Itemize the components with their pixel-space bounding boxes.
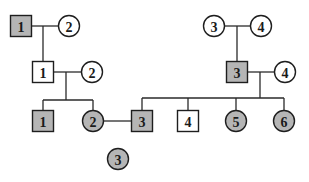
individual-iii-5: 5 xyxy=(226,111,247,132)
individual-label: 3 xyxy=(211,20,218,35)
individual-i-1: 1 xyxy=(11,16,32,37)
individual-label: 2 xyxy=(66,20,73,35)
individual-label: 6 xyxy=(281,115,288,130)
individual-i-3: 3 xyxy=(204,16,225,37)
individuals: 123412341234563 xyxy=(11,16,296,170)
individual-label: 3 xyxy=(234,66,241,81)
individual-ii-2: 2 xyxy=(82,62,103,83)
individual-i-4: 4 xyxy=(251,16,272,37)
individual-ii-1: 1 xyxy=(33,62,54,83)
individual-iv-3: 3 xyxy=(108,149,129,170)
individual-ii-3: 3 xyxy=(227,62,248,83)
individual-label: 2 xyxy=(90,115,97,130)
individual-iii-1: 1 xyxy=(33,111,54,132)
individual-ii-4: 4 xyxy=(275,62,296,83)
individual-iii-2: 2 xyxy=(83,111,104,132)
individual-iii-4: 4 xyxy=(178,111,199,132)
individual-label: 1 xyxy=(40,115,47,130)
individual-label: 3 xyxy=(115,153,122,168)
individual-iii-6: 6 xyxy=(274,111,295,132)
individual-label: 3 xyxy=(139,115,146,130)
pedigree-diagram: 123412341234563 xyxy=(0,0,309,182)
individual-label: 4 xyxy=(282,66,289,81)
individual-iii-3: 3 xyxy=(132,111,153,132)
individual-label: 4 xyxy=(185,115,192,130)
individual-label: 1 xyxy=(18,20,25,35)
individual-label: 2 xyxy=(89,66,96,81)
individual-i-2: 2 xyxy=(59,16,80,37)
individual-label: 5 xyxy=(233,115,240,130)
individual-label: 1 xyxy=(40,66,47,81)
individual-label: 4 xyxy=(258,20,265,35)
